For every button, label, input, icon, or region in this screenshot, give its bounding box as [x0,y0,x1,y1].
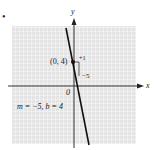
x-axis-label: x [146,82,150,90]
y-axis-arrow-icon [72,18,77,25]
rise-label: −5 [82,73,89,80]
run-label: +1 [79,55,85,61]
point-label: (0, 4) [50,58,67,66]
graph [0,0,156,150]
y-axis-label: y [71,8,75,16]
caption: m = −5, b = 4 [17,103,63,111]
x-axis-arrow-icon [137,84,144,89]
point-marker [71,60,75,64]
origin-label: 0 [66,89,70,97]
dot-marker: • [2,12,6,22]
